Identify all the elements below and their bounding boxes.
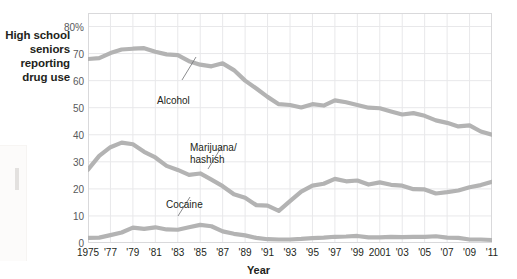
x-tick-1989: '89	[239, 247, 252, 258]
x-tick-1997: '97	[328, 247, 341, 258]
x-tick-2003: '03	[396, 247, 409, 258]
plot-area	[88, 13, 492, 243]
y-tick-70: 70	[54, 48, 84, 59]
y-tick-10: 10	[54, 210, 84, 221]
y-tick-60: 60	[54, 75, 84, 86]
page-edge-mark	[15, 168, 19, 190]
x-tick-2011: '11	[486, 247, 498, 258]
y-axis-tick-labels: 01020304050607080%	[50, 13, 84, 243]
x-tick-1983: '83	[171, 247, 184, 258]
x-tick-2005: '05	[418, 247, 431, 258]
x-tick-1979: '79	[126, 247, 139, 258]
x-tick-1995: '95	[306, 247, 319, 258]
x-tick-2001: 2001	[369, 247, 391, 258]
x-tick-2007: '07	[441, 247, 454, 258]
x-tick-1999: '99	[351, 247, 364, 258]
y-tick-80: 80%	[54, 21, 84, 32]
x-tick-1987: '87	[216, 247, 229, 258]
series-label-marijuana: Marijuana/ hashish	[190, 142, 237, 165]
plot-svg	[88, 13, 492, 243]
x-tick-1985: '85	[194, 247, 207, 258]
x-tick-1981: '81	[149, 247, 162, 258]
series-label-cocaine: Cocaine	[166, 199, 203, 211]
x-tick-1975: 1975	[77, 247, 99, 258]
y-tick-40: 40	[54, 129, 84, 140]
x-axis-caption: Year	[0, 264, 517, 276]
x-tick-1991: '91	[261, 247, 274, 258]
series-label-alcohol: Alcohol	[157, 95, 190, 107]
page-edge-artifact	[0, 145, 27, 261]
drug-use-line-chart: High school seniors reporting drug use 0…	[0, 0, 517, 279]
y-tick-30: 30	[54, 156, 84, 167]
x-tick-2009: '09	[463, 247, 476, 258]
x-axis-tick-labels: 1975'77'79'81'83'85'87'89'91'93'95'97'99…	[88, 247, 492, 261]
x-tick-1977: '77	[104, 247, 117, 258]
y-tick-50: 50	[54, 102, 84, 113]
y-tick-20: 20	[54, 183, 84, 194]
x-tick-1993: '93	[283, 247, 296, 258]
